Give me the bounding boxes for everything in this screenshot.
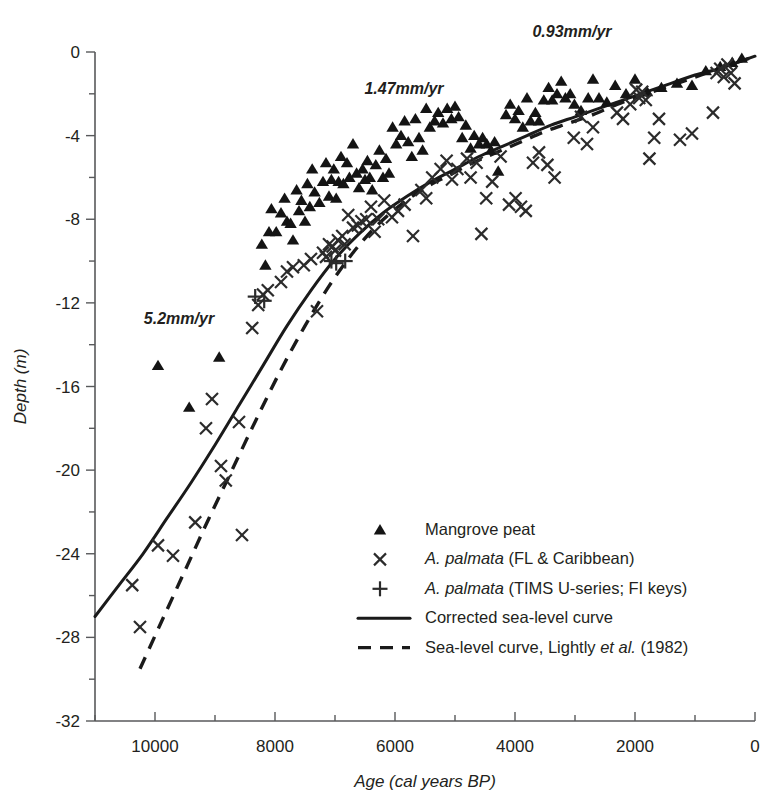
y-tick-label: 0	[71, 43, 80, 62]
y-tick-label: -20	[55, 461, 80, 480]
sea-level-chart: 0-4-8-12-16-20-24-28-3210000800060004000…	[0, 0, 783, 802]
x-tick-label: 8000	[256, 737, 294, 756]
x-tick-label: 4000	[496, 737, 534, 756]
y-axis-title: Depth (m)	[11, 349, 30, 425]
figure-container: 0-4-8-12-16-20-24-28-3210000800060004000…	[0, 0, 783, 802]
legend-label: Corrected sea-level curve	[425, 608, 613, 626]
y-tick-label: -16	[55, 378, 80, 397]
y-tick-label: -8	[65, 210, 80, 229]
legend-label: Mangrove peat	[425, 520, 535, 538]
x-tick-label: 2000	[616, 737, 654, 756]
legend-label: Sea-level curve, Lightly et al. (1982)	[425, 638, 688, 656]
x-tick-label: 6000	[376, 737, 414, 756]
y-tick-label: -32	[55, 712, 80, 731]
x-tick-label: 10000	[131, 737, 178, 756]
y-tick-label: -28	[55, 628, 80, 647]
legend-label: A. palmata (FL & Caribbean)	[424, 549, 634, 567]
rate-annotation: 5.2mm/yr	[144, 310, 215, 327]
chart-background	[0, 0, 783, 802]
y-tick-label: -4	[65, 127, 80, 146]
rate-annotation: 1.47mm/yr	[364, 80, 444, 97]
y-tick-label: -12	[55, 294, 80, 313]
x-tick-label: 0	[750, 737, 759, 756]
y-tick-label: -24	[55, 545, 80, 564]
rate-annotation: 0.93mm/yr	[532, 23, 612, 40]
x-axis-title: Age (cal years BP)	[353, 772, 496, 791]
legend-label: A. palmata (TIMS U-series; FI keys)	[424, 579, 687, 597]
